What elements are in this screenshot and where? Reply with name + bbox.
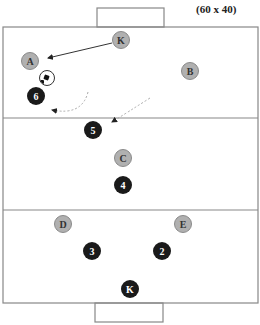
field-dimensions-label: (60 x 40) [196, 3, 236, 15]
pass-arrow-K-to-A [48, 43, 112, 58]
run-arrow-6 [52, 92, 88, 111]
bottom-goal [95, 303, 163, 322]
player-6: 6 [27, 87, 45, 105]
player-5: 5 [84, 121, 102, 139]
top-goal [97, 8, 164, 27]
player-E: E [174, 215, 192, 233]
player-2: 2 [153, 242, 171, 260]
player-A: A [21, 52, 39, 70]
field-boundary [3, 27, 258, 303]
player-K-top: K [112, 31, 130, 49]
soccer-ball-icon [39, 70, 55, 86]
player-B: B [181, 62, 199, 80]
player-4: 4 [114, 176, 132, 194]
player-K-bottom: K [121, 280, 139, 298]
player-D: D [54, 215, 72, 233]
player-3: 3 [83, 242, 101, 260]
player-C: C [114, 149, 132, 167]
